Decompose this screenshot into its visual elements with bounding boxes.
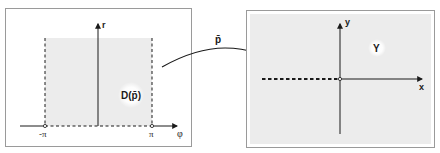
- image-panel: y x Y: [247, 11, 435, 148]
- domain-panel: r φ -π π D(p̄): [6, 9, 192, 147]
- pi-label: π: [149, 129, 154, 139]
- domain-region-label: D(p̄): [121, 90, 141, 101]
- r-axis-label: r: [102, 20, 106, 30]
- minus-pi-point-icon: [43, 124, 46, 127]
- diagram-canvas: r φ -π π D(p̄) p̄ y x Y: [0, 0, 440, 153]
- phi-axis-label: φ: [177, 128, 183, 139]
- x-axis-label: x: [419, 82, 424, 92]
- origin-point-icon: [338, 77, 341, 80]
- mapping-label: p̄: [215, 34, 221, 45]
- pi-point-icon: [150, 124, 153, 127]
- minus-pi-label: -π: [39, 129, 47, 139]
- image-region-label: Y: [373, 43, 380, 54]
- y-axis-label: y: [345, 17, 350, 27]
